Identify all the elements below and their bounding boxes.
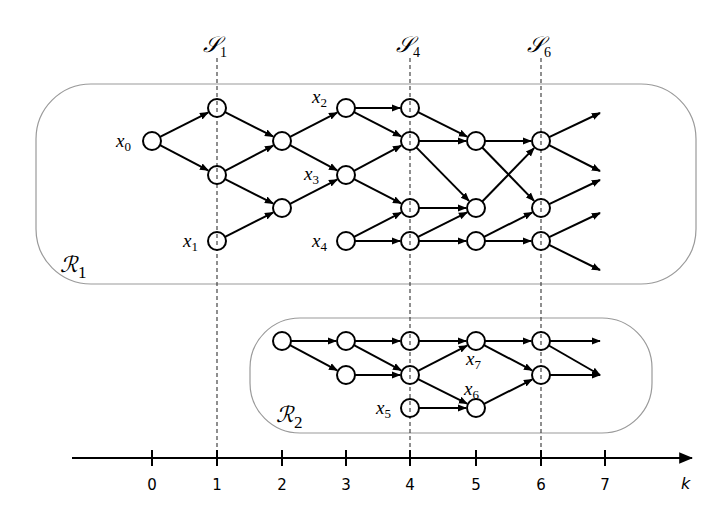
edge-arrow — [484, 213, 532, 237]
edge-arrow — [354, 112, 401, 136]
state-node — [467, 232, 485, 250]
edge-arrow — [354, 213, 401, 237]
edge-arrow — [225, 179, 273, 203]
edge-arrow — [484, 345, 532, 370]
edge-arrow — [160, 145, 208, 170]
edge-arrow — [418, 379, 467, 404]
state-node — [337, 232, 355, 250]
edge-arrow — [225, 112, 273, 136]
edges-group — [160, 108, 600, 408]
edge-arrow — [549, 113, 600, 137]
state-node — [273, 132, 291, 150]
slice-label-s6: 𝒮6 — [527, 32, 551, 60]
axis-tick-label: 6 — [536, 476, 546, 494]
state-node — [143, 132, 161, 150]
state-node — [337, 332, 355, 350]
axis-tick-label: 4 — [405, 476, 415, 494]
edge-arrow — [290, 345, 337, 370]
node-label-x5: x5 — [375, 397, 391, 421]
edge-arrow — [549, 180, 600, 204]
node-label-x6: x6 — [463, 378, 479, 402]
state-node — [273, 199, 291, 217]
axis-tick-label: 0 — [147, 476, 157, 494]
edge-arrow — [484, 380, 532, 404]
trellis-diagram: 𝒮1 𝒮4 𝒮6 ℛ1 ℛ2 x0 x1 x2 x3 x4 x5 x6 x7 0… — [0, 0, 728, 520]
axis-label-k: k — [681, 474, 691, 493]
axis-tick-label: 3 — [341, 476, 351, 494]
edge-arrow — [549, 213, 600, 237]
edge-arrow — [549, 145, 600, 171]
state-node — [337, 99, 355, 117]
edge-arrow — [418, 346, 467, 371]
edge-arrow — [225, 146, 273, 171]
state-node — [273, 332, 291, 350]
node-label-x3: x3 — [303, 163, 319, 187]
state-node — [337, 366, 355, 384]
node-label-x7: x7 — [465, 348, 481, 372]
edge-arrow — [160, 113, 208, 137]
state-node — [467, 199, 485, 217]
edge-arrow — [418, 112, 467, 137]
edge-arrow — [290, 145, 337, 170]
slice-label-s4: 𝒮4 — [396, 32, 420, 60]
edge-arrow — [290, 113, 337, 137]
edge-arrow — [416, 147, 469, 200]
region-label-r2: ℛ2 — [276, 402, 303, 432]
state-node — [467, 132, 485, 150]
edge-arrow — [354, 146, 401, 171]
edge-arrow — [418, 212, 467, 237]
edge-arrow — [549, 245, 600, 270]
node-label-x2: x2 — [311, 86, 327, 110]
edge-arrow — [354, 345, 401, 370]
node-label-x0: x0 — [115, 130, 131, 154]
edge-arrow — [354, 179, 401, 203]
node-label-x1: x1 — [182, 230, 198, 254]
axis-tick-label: 7 — [600, 476, 610, 494]
node-label-x4: x4 — [311, 230, 327, 254]
edge-arrow — [549, 345, 600, 375]
nodes-group — [143, 99, 550, 417]
axis-ticks: 01234567 — [147, 450, 610, 494]
axis-tick-label: 5 — [471, 476, 481, 494]
axis-tick-label: 1 — [212, 476, 222, 494]
slice-label-s1: 𝒮1 — [203, 32, 227, 60]
edge-arrow — [225, 213, 273, 237]
state-node — [337, 166, 355, 184]
axis-tick-label: 2 — [277, 476, 287, 494]
